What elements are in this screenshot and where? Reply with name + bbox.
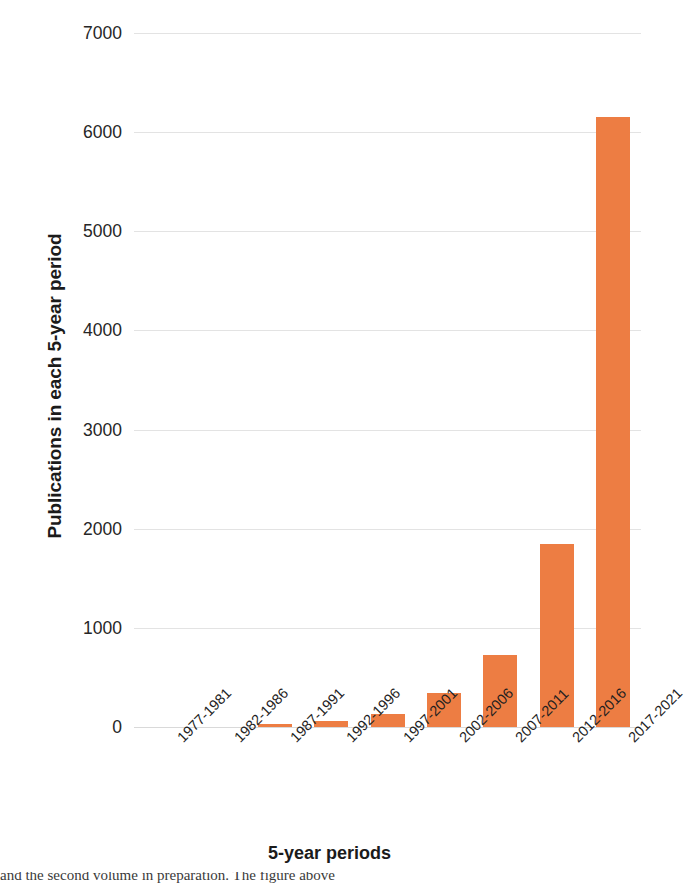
x-axis-ticks: 1977-19811982-19861987-19911992-19961997… <box>134 734 641 834</box>
plot-area <box>134 33 641 727</box>
gridline <box>134 231 641 232</box>
y-axis-tick-label: 7000 <box>0 23 122 44</box>
caption-text: and the second volume in preparation. Th… <box>0 872 659 884</box>
y-axis-title: Publications in each 5-year period <box>44 186 66 586</box>
gridline <box>134 132 641 133</box>
y-axis-tick-label: 0 <box>0 717 122 738</box>
x-axis-title: 5-year periods <box>0 843 659 864</box>
caption-sliver: and the second volume in preparation. Th… <box>0 872 659 890</box>
bar <box>596 117 630 727</box>
y-axis-tick-label: 6000 <box>0 122 122 143</box>
gridline <box>134 430 641 431</box>
gridline <box>134 529 641 530</box>
gridline <box>134 727 641 728</box>
y-axis-tick-label: 1000 <box>0 617 122 638</box>
gridline <box>134 33 641 34</box>
gridline <box>134 330 641 331</box>
